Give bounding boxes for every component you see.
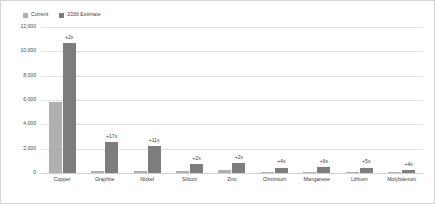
bar-manganese-current[interactable]: [303, 172, 316, 173]
bar-group-nickel: +11x: [126, 27, 168, 173]
y-axis-tick-label: 12,000: [20, 24, 36, 29]
legend-swatch-icon: [59, 13, 64, 18]
bar-group-lithium: +5x: [338, 27, 380, 173]
x-axis-labels: CopperGraphiteNickelSiliconZincChromiumM…: [41, 177, 423, 182]
bar-silicon-current[interactable]: [176, 171, 189, 173]
bar-lithium-current[interactable]: [346, 172, 359, 173]
legend-label: 2030 Estimate: [67, 12, 100, 17]
bar-lithium-estimate[interactable]: [360, 168, 373, 173]
bar-group-chromium: +4x: [253, 27, 295, 173]
bar-chromium-current[interactable]: [261, 172, 274, 173]
x-axis-line: [41, 173, 423, 174]
bar-nickel-estimate[interactable]: [148, 146, 161, 173]
bar-copper-current[interactable]: [49, 102, 62, 173]
chart-legend: Current2030 Estimate: [23, 10, 101, 20]
bar-zinc-estimate[interactable]: [232, 163, 245, 173]
multiplier-label-manganese: +6x: [320, 159, 328, 164]
multiplier-label-lithium: +5x: [362, 159, 370, 164]
y-axis-tick-label: 8,000: [23, 73, 36, 78]
legend-swatch-icon: [23, 13, 28, 18]
y-axis-tick-label: 6,000: [23, 97, 36, 102]
legend-item-2030-estimate[interactable]: 2030 Estimate: [59, 12, 100, 17]
multiplier-label-copper: +2x: [65, 35, 73, 40]
x-axis-label-manganese: Manganese: [296, 177, 338, 182]
bar-group-zinc: +2x: [211, 27, 253, 173]
multiplier-label-silicon: +2x: [192, 156, 200, 161]
multiplier-label-nickel: +11x: [149, 138, 160, 143]
bar-groups: +2x+17x+11x+2x+2x+4x+6x+5x+4x: [41, 27, 423, 173]
bar-molybdenum-current[interactable]: [388, 172, 401, 173]
x-axis-label-chromium: Chromium: [253, 177, 295, 182]
x-axis-label-nickel: Nickel: [126, 177, 168, 182]
bar-group-silicon: +2x: [168, 27, 210, 173]
bar-molybdenum-estimate[interactable]: [402, 170, 415, 173]
x-axis-label-copper: Copper: [41, 177, 83, 182]
grouped-bar-chart: Current2030 Estimate 02,0004,0006,0008,0…: [0, 0, 435, 204]
multiplier-label-graphite: +17x: [106, 134, 117, 139]
bar-silicon-estimate[interactable]: [190, 164, 203, 173]
multiplier-label-molybdenum: +4x: [405, 162, 413, 167]
bar-group-manganese: +6x: [296, 27, 338, 173]
bar-graphite-current[interactable]: [91, 171, 104, 173]
plot-area: 02,0004,0006,0008,00010,00012,000 +2x+17…: [41, 27, 423, 173]
bar-group-molybdenum: +4x: [381, 27, 423, 173]
y-axis-tick-label: 0: [33, 170, 36, 175]
bar-chromium-estimate[interactable]: [275, 168, 288, 173]
bar-graphite-estimate[interactable]: [105, 142, 118, 173]
bar-zinc-current[interactable]: [218, 170, 231, 173]
bar-group-graphite: +17x: [83, 27, 125, 173]
y-axis-tick-label: 4,000: [23, 122, 36, 127]
x-axis-label-graphite: Graphite: [83, 177, 125, 182]
x-axis-label-molybdenum: Molybdenum: [381, 177, 423, 182]
bar-copper-estimate[interactable]: [63, 43, 76, 173]
x-axis-label-lithium: Lithium: [338, 177, 380, 182]
legend-item-current[interactable]: Current: [23, 12, 48, 17]
legend-label: Current: [31, 12, 48, 17]
multiplier-label-chromium: +4x: [277, 159, 285, 164]
multiplier-label-zinc: +2x: [235, 155, 243, 160]
bar-group-copper: +2x: [41, 27, 83, 173]
bar-manganese-estimate[interactable]: [317, 167, 330, 173]
x-axis-label-silicon: Silicon: [168, 177, 210, 182]
y-axis-tick-label: 2,000: [23, 146, 36, 151]
bar-nickel-current[interactable]: [134, 171, 147, 173]
x-axis-label-zinc: Zinc: [211, 177, 253, 182]
y-axis-tick-label: 10,000: [20, 49, 36, 54]
